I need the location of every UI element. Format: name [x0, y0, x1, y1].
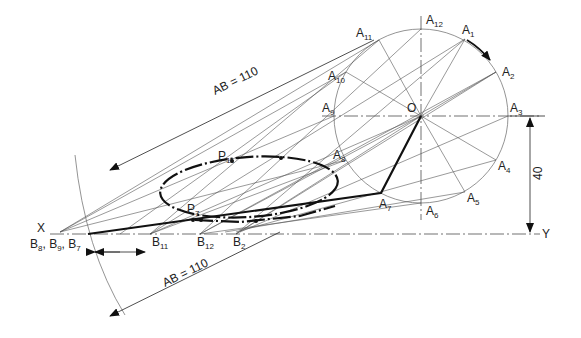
circle-point-labels: A1 A2 A3 A4 A5 A6 A7 A8 A9 A10 A11 A12 — [322, 13, 523, 220]
svg-text:A10: A10 — [328, 69, 345, 85]
y-label: Y — [542, 227, 550, 241]
svg-text:B2: B2 — [233, 235, 246, 251]
dim-height-label: 40 — [531, 166, 545, 180]
svg-text:A3: A3 — [510, 101, 523, 117]
x-label: X — [37, 221, 45, 235]
swing-arc — [75, 155, 125, 315]
svg-text:A6: A6 — [426, 204, 439, 220]
dim-ab-upper-label: AB = 110 — [210, 64, 260, 98]
svg-text:A11: A11 — [356, 26, 373, 42]
svg-text:A4: A4 — [498, 159, 511, 175]
svg-text:B8, B9, B7: B8, B9, B7 — [30, 237, 81, 253]
svg-text:A12: A12 — [426, 13, 443, 29]
rotation-arrow — [467, 40, 490, 60]
svg-text:A5: A5 — [467, 191, 480, 207]
construction-lines — [60, 29, 508, 234]
svg-text:A7: A7 — [379, 197, 392, 213]
svg-text:P11: P11 — [218, 149, 235, 165]
mechanism-drawing: AB = 110 AB = 110 40 O A1 A2 A3 A4 A5 A6… — [0, 0, 581, 338]
svg-text:B11: B11 — [152, 235, 169, 251]
svg-text:B12: B12 — [197, 235, 214, 251]
svg-text:A2: A2 — [502, 65, 515, 81]
svg-text:A1: A1 — [462, 23, 475, 39]
dim-ab-lower-label: AB = 110 — [160, 256, 210, 290]
slider-point-labels: B8, B9, B7 B11 B12 B2 — [30, 235, 246, 253]
center-label: O — [407, 101, 416, 115]
svg-text:A9: A9 — [322, 101, 335, 117]
svg-text:A8: A8 — [333, 148, 346, 164]
